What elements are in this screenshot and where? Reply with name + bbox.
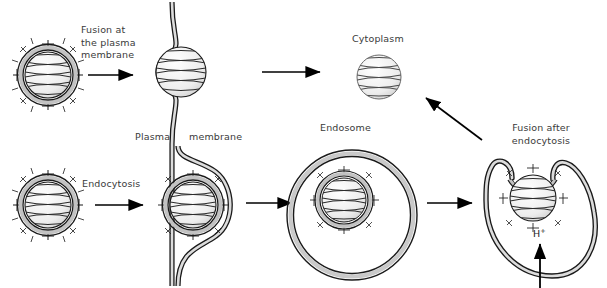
fusion-at-plasma-membrane [156, 2, 206, 286]
label-fusion-after-endocytosis: Fusion after endocytosis [497, 122, 585, 147]
label-cytoplasm: Cytoplasm [352, 33, 404, 46]
proton-charge: + [540, 227, 545, 235]
label-membrane: membrane [189, 131, 242, 144]
endosome-with-virion [287, 150, 417, 280]
label-fusion-plasma-membrane: Fusion at the plasma membrane [81, 24, 136, 62]
endocytosis-engulfment [158, 146, 230, 286]
arrow-release-to-cytoplasm [426, 98, 482, 140]
label-proton: H+ [533, 227, 546, 239]
enveloped-virus-top-left [12, 38, 84, 112]
diagram-canvas: Fusion at the plasma membrane Endocytosi… [0, 0, 607, 288]
label-endocytosis: Endocytosis [82, 178, 140, 191]
label-endosome: Endosome [320, 122, 371, 135]
free-nucleocapsid-cytoplasm [357, 55, 401, 99]
label-plasma: Plasma [135, 131, 170, 144]
enveloped-virus-bottom-left [12, 168, 84, 242]
